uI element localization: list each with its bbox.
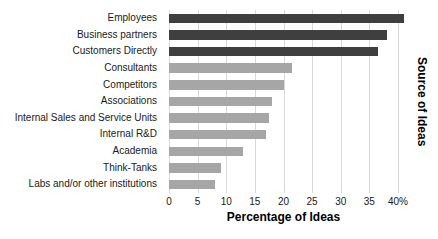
bar bbox=[169, 63, 292, 73]
x-tick-label: 0 bbox=[166, 196, 172, 207]
x-tick-label: 30 bbox=[335, 196, 346, 207]
y-axis-title-wrap: Source of Ideas bbox=[412, 10, 432, 193]
category-labels: EmployeesBusiness partnersCustomers Dire… bbox=[0, 10, 163, 193]
gridline bbox=[398, 10, 399, 193]
bar bbox=[169, 30, 387, 40]
category-label: Employees bbox=[0, 10, 163, 27]
category-label: Think-Tanks bbox=[0, 160, 163, 177]
x-axis-title: Percentage of Ideas bbox=[169, 210, 398, 224]
bar bbox=[169, 113, 269, 123]
bar bbox=[169, 97, 272, 107]
category-label: Internal Sales and Service Units bbox=[0, 110, 163, 127]
bar-chart: EmployeesBusiness partnersCustomers Dire… bbox=[0, 0, 438, 239]
x-tick-label: 15 bbox=[249, 196, 260, 207]
category-label: Consultants bbox=[0, 60, 163, 77]
x-tick-label: 5 bbox=[195, 196, 201, 207]
category-label: Internal R&D bbox=[0, 126, 163, 143]
bar bbox=[169, 163, 221, 173]
category-label: Competitors bbox=[0, 77, 163, 94]
x-tick-label: 35 bbox=[364, 196, 375, 207]
bar bbox=[169, 80, 284, 90]
x-axis-ticks: 0510152025303540% bbox=[0, 196, 438, 208]
bar bbox=[169, 130, 266, 140]
bar bbox=[169, 14, 404, 24]
x-tick-label: 40% bbox=[388, 196, 408, 207]
category-label: Labs and/or other institutions bbox=[0, 176, 163, 193]
x-tick-label: 25 bbox=[307, 196, 318, 207]
x-tick-label: 10 bbox=[221, 196, 232, 207]
bar bbox=[169, 47, 378, 57]
category-label: Associations bbox=[0, 93, 163, 110]
category-label: Customers Directly bbox=[0, 43, 163, 60]
bar bbox=[169, 180, 215, 190]
category-label: Business partners bbox=[0, 27, 163, 44]
y-axis-title: Source of Ideas bbox=[415, 57, 429, 146]
category-label: Academia bbox=[0, 143, 163, 160]
bar bbox=[169, 147, 243, 157]
plot-area bbox=[169, 10, 398, 193]
x-tick-label: 20 bbox=[278, 196, 289, 207]
